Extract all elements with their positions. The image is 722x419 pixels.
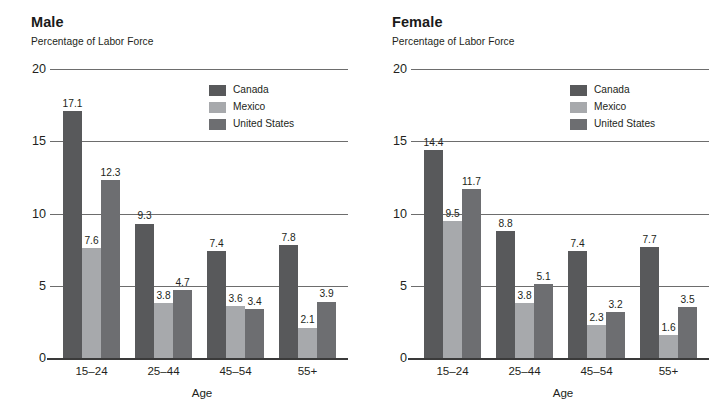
legend-item-label: Mexico [594,102,626,112]
chart-panel-male: Male Percentage of Labor Force 05101520 … [0,0,361,419]
chart-panel-female: Female Percentage of Labor Force 0510152… [361,0,722,419]
legend-item: United States [570,118,655,131]
y-axis-tick [411,141,418,142]
y-axis-tick [50,286,57,287]
x-axis-title: Age [553,386,574,399]
bar: 7.4 [207,251,226,358]
legend-item: Mexico [209,101,294,114]
bar-value-label: 7.7 [642,235,656,245]
bar-value-label: 9.5 [445,209,459,219]
bar: 3.5 [678,307,697,358]
bar: 9.3 [135,224,154,358]
y-axis-tick [411,69,418,70]
x-axis-tick-label: 25–44 [508,364,540,377]
bar-value-label: 7.4 [209,239,223,249]
bar: 3.4 [245,309,264,358]
bar-value-label: 3.8 [517,291,531,301]
y-axis-tick [50,69,57,70]
bar: 3.8 [515,303,534,358]
chart-subtitle: Percentage of Labor Force [392,36,514,47]
legend-swatch-icon [570,102,587,113]
bar: 4.7 [173,290,192,358]
y-axis-tick-label: 5 [400,279,407,293]
bar-value-label: 7.6 [84,236,98,246]
legend-swatch-icon [570,119,587,130]
bar: 2.3 [587,325,606,358]
bar: 1.6 [659,335,678,358]
y-axis-tick-label: 10 [32,207,46,221]
bar-value-label: 3.9 [319,289,333,299]
y-axis-tick [411,286,418,287]
legend-item: United States [209,118,294,131]
x-axis-tick-label: 15–24 [436,364,468,377]
legend-swatch-icon [209,85,226,96]
chart-page: Male Percentage of Labor Force 05101520 … [0,0,722,419]
bar-value-label: 3.5 [680,295,694,305]
bar-value-label: 2.3 [589,313,603,323]
y-axis-tick-label: 10 [393,207,407,221]
y-axis-tick [411,214,418,215]
bar: 8.8 [496,231,515,358]
y-axis-tick-label: 5 [39,279,46,293]
bar-value-label: 3.2 [608,300,622,310]
y-axis-tick-label: 15 [393,134,407,148]
legend-swatch-icon [209,119,226,130]
legend-item-label: United States [594,119,655,129]
bar: 3.8 [154,303,173,358]
legend-item-label: Mexico [233,102,265,112]
plot-area-female: 05101520 14.49.511.78.83.85.17.42.33.27.… [418,69,709,358]
bar: 3.6 [226,306,245,358]
x-axis-tick-label: 25–44 [147,364,179,377]
bar-value-label: 4.7 [175,278,189,288]
bar-value-label: 1.6 [661,323,675,333]
page-title: Female [392,14,443,30]
chart-subtitle: Percentage of Labor Force [31,36,153,47]
bar: 14.4 [424,150,443,358]
legend-swatch-icon [570,85,587,96]
bar: 9.5 [443,221,462,358]
bar: 7.8 [279,245,298,358]
y-axis-tick-label: 20 [393,62,407,76]
x-axis-tick-label: 15–24 [75,364,107,377]
legend-male: CanadaMexicoUnited States [209,84,294,135]
y-axis-tick-label: 15 [32,134,46,148]
bar: 2.1 [298,328,317,358]
bar: 11.7 [462,189,481,358]
bar-groups: 14.49.511.78.83.85.17.42.33.27.71.63.5 [418,69,709,358]
bar-value-label: 7.8 [281,233,295,243]
bar-value-label: 11.7 [462,177,481,187]
bar: 7.7 [640,247,659,358]
plot-area-male: 05101520 17.17.612.39.33.84.77.43.63.47.… [57,69,348,358]
bar-value-label: 5.1 [536,272,550,282]
bar-value-label: 12.3 [101,168,121,178]
bar-value-label: 8.8 [498,219,512,229]
bar-value-label: 3.6 [228,294,242,304]
y-axis-tick [50,214,57,215]
axis-baseline [408,358,709,360]
x-axis-title: Age [192,386,213,399]
x-axis-tick-label: 55+ [298,364,318,377]
legend-swatch-icon [209,102,226,113]
bar: 12.3 [101,180,120,358]
bar-value-label: 3.4 [247,297,261,307]
bar: 7.6 [82,248,101,358]
bar-value-label: 3.8 [156,291,170,301]
y-axis-tick-label: 0 [39,351,46,365]
bar-group: 17.17.612.3 [63,69,120,358]
y-axis-tick [50,141,57,142]
y-axis-tick-label: 20 [32,62,46,76]
bar-value-label: 7.4 [570,239,584,249]
bar-value-label: 17.1 [63,99,83,109]
x-axis-tick-label: 45–54 [580,364,612,377]
x-axis-tick-label: 45–54 [219,364,251,377]
bar: 3.2 [606,312,625,358]
bar-value-label: 2.1 [300,315,314,325]
legend-item-label: Canada [233,85,269,95]
legend-item: Mexico [570,101,655,114]
bar: 3.9 [317,302,336,358]
bar-value-label: 9.3 [137,211,151,221]
bar-group: 9.33.84.7 [135,69,192,358]
legend-item-label: United States [233,119,294,129]
bar: 7.4 [568,251,587,358]
legend-item: Canada [209,84,294,97]
